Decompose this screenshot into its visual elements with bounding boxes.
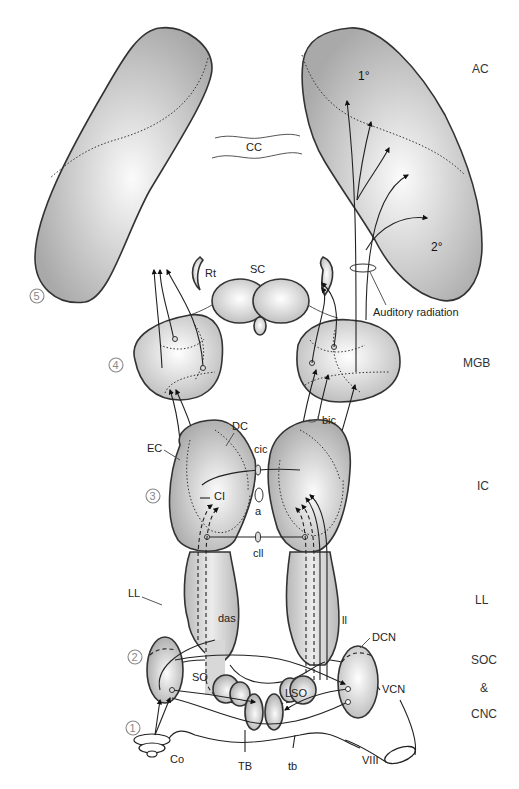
auditory-pathway-diagram: CC 1° 2° Auditory radiation Rt SC	[0, 0, 519, 789]
inferior-colliculus-right	[268, 420, 350, 553]
label-vcn: VCN	[382, 683, 405, 695]
corpus-callosum: CC	[212, 134, 302, 158]
label-auditory-radiation: Auditory radiation	[373, 306, 459, 318]
dcn-leader	[360, 638, 370, 648]
lateral-lemniscus-right	[287, 552, 339, 665]
label-rt: Rt	[205, 267, 216, 279]
svg-text:5: 5	[34, 290, 40, 302]
label-cll: cll	[253, 547, 263, 559]
level-number-1: 1	[126, 721, 140, 735]
label-viii: VIII	[362, 754, 379, 766]
label-ll: LL	[128, 587, 140, 599]
svg-text:3: 3	[150, 490, 156, 502]
label-tb-upper: TB	[238, 760, 252, 772]
right-auditory-cortex	[302, 28, 482, 301]
label-dc: DC	[232, 420, 248, 432]
level-label-amp: &	[480, 681, 488, 695]
label-tb-lower: tb	[288, 760, 297, 772]
label-bic: bic	[322, 414, 337, 426]
svg-text:4: 4	[113, 359, 119, 371]
level-number-4: 4	[109, 358, 123, 372]
level-label-ic: IC	[477, 479, 489, 493]
svg-text:1: 1	[130, 722, 136, 734]
label-ll-small: ll	[342, 614, 347, 626]
ll-leader	[142, 597, 162, 605]
reticular-nucleus-left	[193, 257, 204, 290]
label-primary-cortex: 1°	[358, 69, 370, 83]
label-das: das	[218, 612, 236, 624]
level-labels: AC MGB IC LL SOC & CNC	[463, 62, 497, 721]
aqueduct	[255, 488, 263, 502]
label-so: SO	[192, 671, 208, 683]
inferior-colliculus-left	[170, 420, 256, 551]
level-label-soc: SOC	[471, 653, 497, 667]
left-auditory-cortex	[35, 28, 212, 303]
label-ec: EC	[147, 442, 162, 454]
level-number-2: 2	[128, 650, 142, 664]
label-secondary-cortex: 2°	[431, 240, 443, 254]
level-number-3: 3	[146, 489, 160, 503]
level-label-ll: LL	[475, 593, 489, 607]
label-ci: CI	[214, 490, 225, 502]
label-lso: LSO	[285, 687, 307, 699]
label-dcn: DCN	[372, 631, 396, 643]
level-label-ac: AC	[472, 62, 489, 76]
cochlea	[134, 734, 170, 757]
level-label-mgb: MGB	[463, 356, 490, 370]
mgb-left	[134, 315, 222, 400]
label-cic: cic	[254, 443, 268, 455]
label-a: a	[255, 505, 262, 517]
label-sc: SC	[250, 263, 265, 275]
level-number-5: 5	[30, 289, 44, 303]
svg-text:2: 2	[132, 651, 138, 663]
label-co: Co	[170, 753, 184, 765]
cochlear-nucleus-left	[147, 637, 183, 703]
label-cc: CC	[246, 141, 262, 153]
cochlear-nucleus-right	[338, 646, 378, 718]
level-label-cnc: CNC	[471, 707, 497, 721]
